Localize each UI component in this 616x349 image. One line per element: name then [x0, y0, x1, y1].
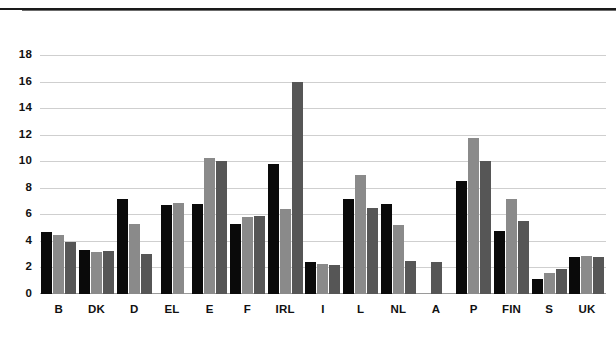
x-tick-label-a: A: [417, 298, 455, 320]
bar-irl-series-1: [268, 164, 279, 294]
bar-e-series-3: [216, 161, 227, 294]
x-tick-label-e: E: [191, 298, 229, 320]
x-tick-label-fin: FIN: [493, 298, 531, 320]
header-rule-thin: [22, 10, 616, 11]
y-tick-label-6: 6: [0, 208, 32, 220]
bar-nl-series-3: [405, 261, 416, 294]
x-tick-label-uk: UK: [568, 298, 606, 320]
x-tick-label-irl: IRL: [266, 298, 304, 320]
bar-uk-series-1: [569, 257, 580, 294]
bar-nl-series-2: [393, 225, 404, 294]
bar-group-l: [342, 42, 380, 294]
bar-p-series-1: [456, 181, 467, 294]
bar-group-uk: [568, 42, 606, 294]
bar-d-series-3: [141, 254, 152, 294]
bar-e-series-1: [192, 204, 203, 294]
y-tick-label-12: 12: [0, 129, 32, 141]
bar-el-series-1: [161, 205, 172, 294]
bar-group-p: [455, 42, 493, 294]
bar-group-f: [229, 42, 267, 294]
bar-fin-series-3: [518, 221, 529, 294]
bar-d-series-1: [117, 199, 128, 294]
x-tick-label-f: F: [229, 298, 267, 320]
x-tick-label-b: B: [40, 298, 78, 320]
bar-b-series-1: [41, 232, 52, 294]
bar-groups: [40, 42, 606, 294]
bar-f-series-2: [242, 217, 253, 294]
y-tick-label-18: 18: [0, 49, 32, 61]
bar-fin-series-1: [494, 231, 505, 294]
bar-l-series-3: [367, 208, 378, 294]
bar-el-series-2: [173, 203, 184, 294]
x-axis-labels: BDKDELEFIRLILNLAPFINSUK: [40, 298, 606, 320]
y-tick-label-4: 4: [0, 235, 32, 247]
y-tick-label-16: 16: [0, 76, 32, 88]
bar-group-el: [153, 42, 191, 294]
bar-e-series-2: [204, 158, 215, 294]
bar-dk-series-2: [91, 252, 102, 294]
bar-chart: 024681012141618 BDKDELEFIRLILNLAPFINSUK: [0, 0, 616, 349]
bar-i-series-1: [305, 262, 316, 294]
bar-p-series-3: [480, 161, 491, 294]
bar-irl-series-2: [280, 209, 291, 294]
bar-uk-series-2: [581, 256, 592, 294]
bar-group-a: [417, 42, 455, 294]
x-tick-label-el: EL: [153, 298, 191, 320]
y-tick-label-2: 2: [0, 261, 32, 273]
bar-f-series-3: [254, 216, 265, 294]
bar-uk-series-3: [593, 257, 604, 294]
bar-b-series-3: [65, 242, 76, 294]
bar-s-series-1: [532, 279, 543, 294]
bar-nl-series-1: [381, 204, 392, 294]
y-tick-label-0: 0: [0, 288, 32, 300]
bar-group-i: [304, 42, 342, 294]
bar-dk-series-3: [103, 251, 114, 294]
y-tick-label-8: 8: [0, 182, 32, 194]
bar-i-series-2: [317, 264, 328, 295]
y-tick-label-14: 14: [0, 102, 32, 114]
x-tick-label-l: L: [342, 298, 380, 320]
y-tick-label-10: 10: [0, 155, 32, 167]
bar-l-series-2: [355, 175, 366, 294]
bar-s-series-3: [556, 269, 567, 294]
x-tick-label-p: P: [455, 298, 493, 320]
bar-group-s: [530, 42, 568, 294]
x-tick-label-nl: NL: [379, 298, 417, 320]
bar-group-e: [191, 42, 229, 294]
bar-l-series-1: [343, 199, 354, 294]
bar-a-series-3: [431, 262, 442, 294]
bar-irl-series-3: [292, 82, 303, 294]
plot-area: [40, 42, 606, 294]
bar-p-series-2: [468, 138, 479, 295]
bar-f-series-1: [230, 224, 241, 294]
bar-group-fin: [493, 42, 531, 294]
x-tick-label-s: S: [530, 298, 568, 320]
bar-group-b: [40, 42, 78, 294]
bar-fin-series-2: [506, 199, 517, 294]
bar-group-irl: [266, 42, 304, 294]
bar-group-dk: [78, 42, 116, 294]
bar-s-series-2: [544, 273, 555, 294]
bar-d-series-2: [129, 224, 140, 294]
x-tick-label-dk: DK: [78, 298, 116, 320]
bar-group-d: [115, 42, 153, 294]
bar-b-series-2: [53, 235, 64, 294]
bar-group-nl: [379, 42, 417, 294]
x-tick-label-i: I: [304, 298, 342, 320]
bar-dk-series-1: [79, 250, 90, 294]
bar-i-series-3: [329, 265, 340, 294]
x-tick-label-d: D: [115, 298, 153, 320]
